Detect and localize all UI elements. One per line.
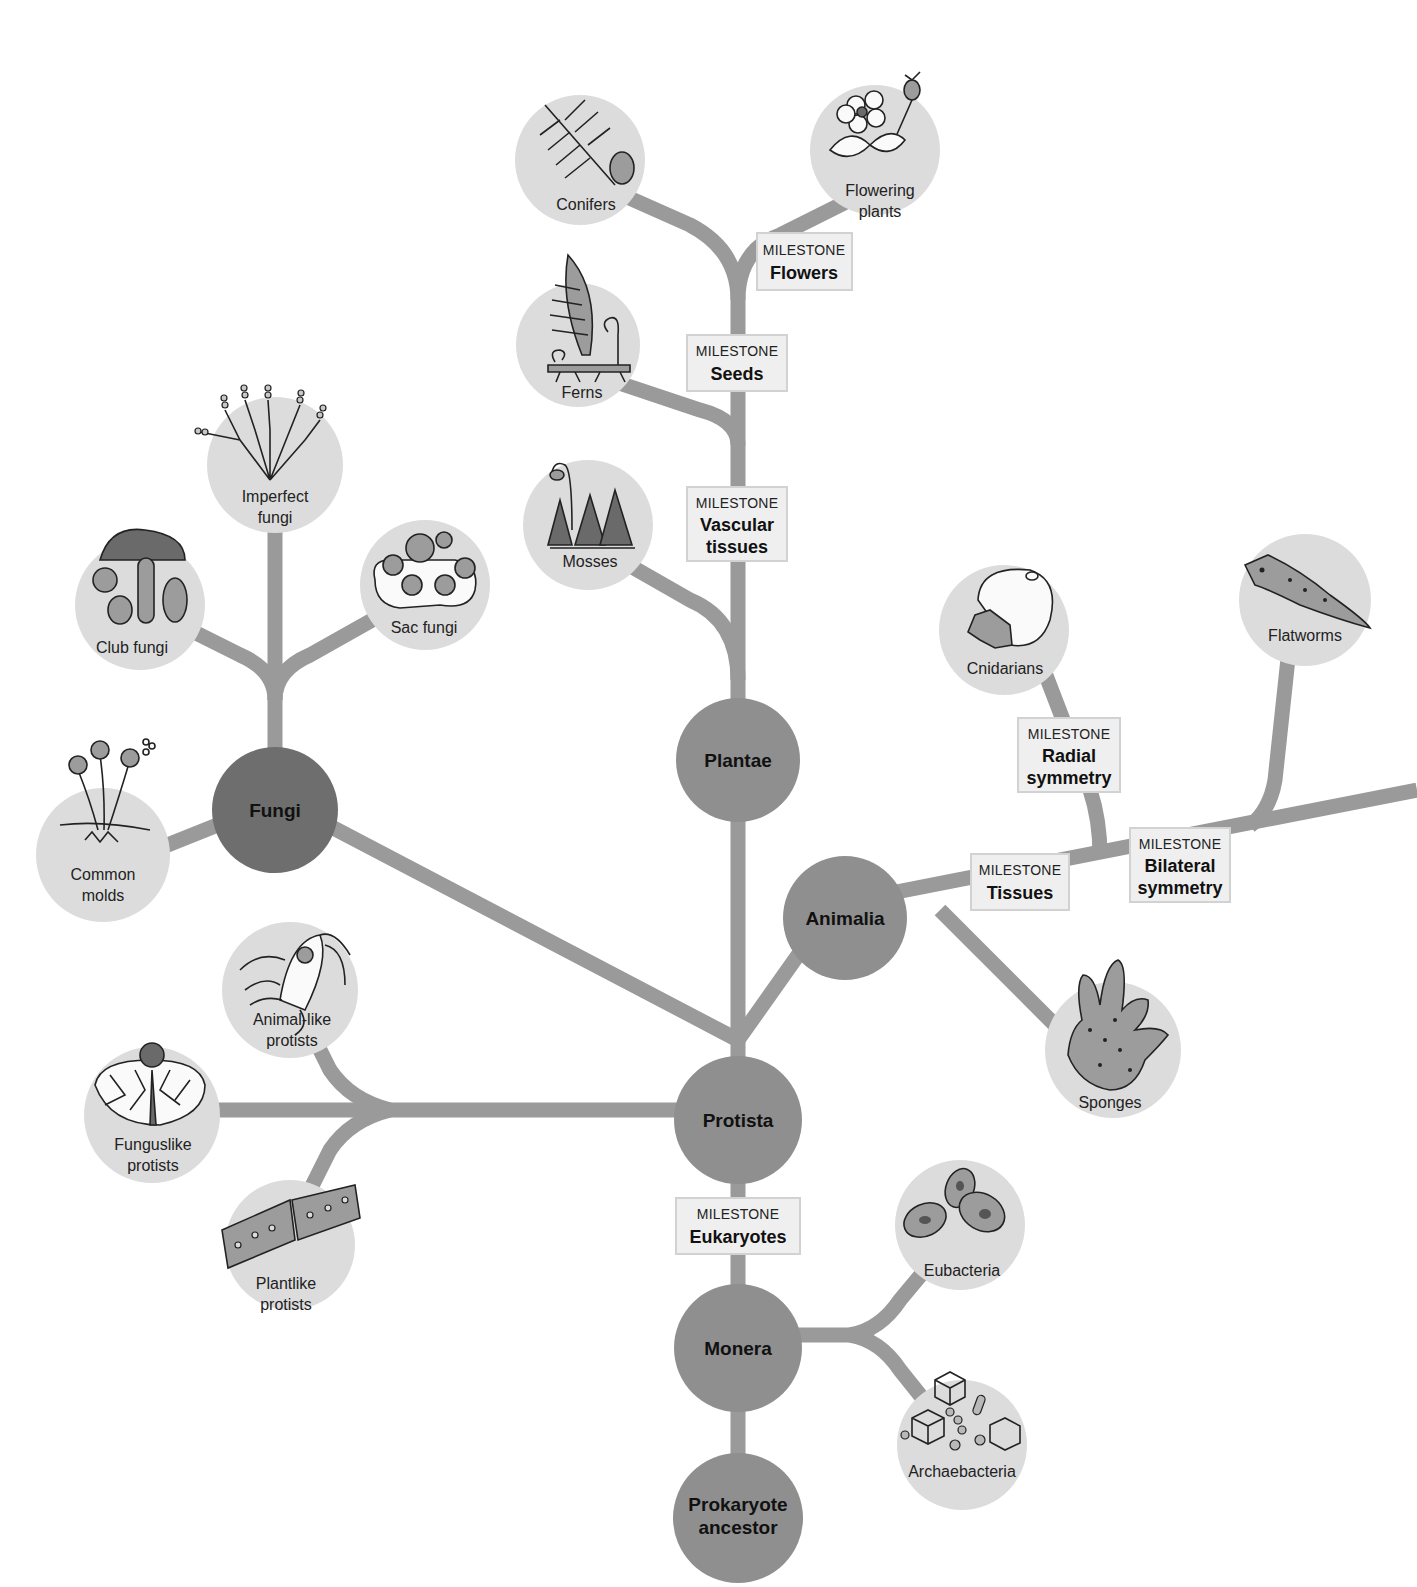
node-common-molds[interactable]: Common molds — [36, 739, 170, 922]
milestone-header: MILESTONE — [697, 1206, 779, 1222]
label-molds-line1: Common — [71, 866, 136, 883]
node-eubacteria[interactable]: Eubacteria — [895, 1160, 1025, 1290]
milestone-header: MILESTONE — [979, 862, 1061, 878]
label-fungi: Fungi — [249, 800, 301, 821]
milestone-tissues-label: Tissues — [987, 883, 1054, 903]
label-conifers: Conifers — [556, 196, 616, 213]
label-mosses: Mosses — [562, 553, 617, 570]
kingdom-plantae[interactable]: Plantae — [676, 698, 800, 822]
milestone-seeds-label: Seeds — [710, 364, 763, 384]
branch-flatworms — [1250, 640, 1290, 826]
milestone-header: MILESTONE — [1028, 726, 1110, 742]
milestone-flowers: MILESTONE Flowers — [757, 233, 852, 290]
node-animal-like-protists[interactable]: Animal-like protists — [222, 922, 358, 1058]
milestone-eukaryotes-label: Eukaryotes — [689, 1227, 786, 1247]
milestone-bilateral-line1: Bilateral — [1144, 856, 1215, 876]
node-imperfect-fungi[interactable]: Imperfect fungi — [195, 385, 343, 533]
milestone-header: MILESTONE — [696, 495, 778, 511]
label-plant-protists-line1: Plantlike — [256, 1275, 317, 1292]
label-fungus-protists-line1: Funguslike — [114, 1136, 191, 1153]
node-mosses[interactable]: Mosses — [523, 460, 653, 590]
label-fungus-protists-line2: protists — [127, 1157, 179, 1174]
label-animal-protists-line2: protists — [266, 1032, 318, 1049]
milestone-vascular-line2: tissues — [706, 537, 768, 557]
label-flatworms: Flatworms — [1268, 627, 1342, 644]
label-cnidarians: Cnidarians — [967, 660, 1043, 677]
label-ancestor-line2: ancestor — [698, 1517, 778, 1538]
label-sac-fungi: Sac fungi — [391, 619, 458, 636]
label-monera: Monera — [704, 1338, 772, 1359]
milestone-header: MILESTONE — [1139, 836, 1221, 852]
label-flowering-line1: Flowering — [845, 182, 914, 199]
node-sac-fungi[interactable]: Sac fungi — [360, 520, 490, 650]
node-sponges[interactable]: Sponges — [1045, 960, 1181, 1118]
label-archaebacteria: Archaebacteria — [908, 1463, 1016, 1480]
milestone-radial-line1: Radial — [1042, 746, 1096, 766]
milestone-radial-line2: symmetry — [1026, 768, 1111, 788]
label-club-fungi: Club fungi — [96, 639, 168, 656]
node-conifers[interactable]: Conifers — [515, 95, 645, 225]
node-flatworms[interactable]: Flatworms — [1239, 534, 1371, 666]
milestone-header: MILESTONE — [696, 343, 778, 359]
kingdom-fungi[interactable]: Fungi — [212, 747, 338, 873]
milestone-vascular-tissues: MILESTONE Vascular tissues — [687, 487, 787, 561]
milestone-seeds: MILESTONE Seeds — [687, 335, 787, 391]
branch-mosses — [620, 560, 738, 680]
node-cnidarians[interactable]: Cnidarians — [939, 565, 1069, 695]
label-flowering-line2: plants — [859, 203, 902, 220]
label-animalia: Animalia — [805, 908, 885, 929]
label-plantae: Plantae — [704, 750, 772, 771]
kingdom-monera[interactable]: Monera — [674, 1284, 802, 1412]
label-plant-protists-line2: protists — [260, 1296, 312, 1313]
milestone-tissues: MILESTONE Tissues — [971, 854, 1069, 910]
kingdom-protista[interactable]: Protista — [674, 1056, 802, 1184]
milestone-bilateral-line2: symmetry — [1137, 878, 1222, 898]
kingdom-animalia[interactable]: Animalia — [783, 856, 907, 980]
phylogenetic-tree-diagram: Conifers Flowering plants — [0, 0, 1417, 1587]
label-imperfect-line1: Imperfect — [242, 488, 309, 505]
label-imperfect-line2: fungi — [258, 509, 293, 526]
node-plantlike-protists[interactable]: Plantlike protists — [222, 1180, 360, 1313]
label-molds-line2: molds — [82, 887, 125, 904]
label-protista: Protista — [703, 1110, 774, 1131]
label-ancestor-line1: Prokaryote — [688, 1494, 787, 1515]
label-eubacteria: Eubacteria — [924, 1262, 1001, 1279]
milestone-flowers-label: Flowers — [770, 263, 838, 283]
label-animal-protists-line1: Animal-like — [253, 1011, 331, 1028]
milestone-bilateral-symmetry: MILESTONE Bilateral symmetry — [1130, 828, 1230, 902]
node-funguslike-protists[interactable]: Funguslike protists — [84, 1043, 220, 1183]
node-prokaryote-ancestor[interactable]: Prokaryote ancestor — [673, 1453, 803, 1583]
label-sponges: Sponges — [1078, 1094, 1141, 1111]
branch-animalia-right — [830, 790, 1417, 905]
milestone-radial-symmetry: MILESTONE Radial symmetry — [1018, 718, 1120, 792]
label-ferns: Ferns — [562, 384, 603, 401]
node-ferns[interactable]: Ferns — [516, 255, 640, 407]
node-club-fungi[interactable]: Club fungi — [75, 529, 205, 670]
milestone-vascular-line1: Vascular — [700, 515, 774, 535]
node-flowering-plants[interactable]: Flowering plants — [810, 72, 940, 220]
milestone-eukaryotes: MILESTONE Eukaryotes — [676, 1198, 800, 1254]
milestone-header: MILESTONE — [763, 242, 845, 258]
